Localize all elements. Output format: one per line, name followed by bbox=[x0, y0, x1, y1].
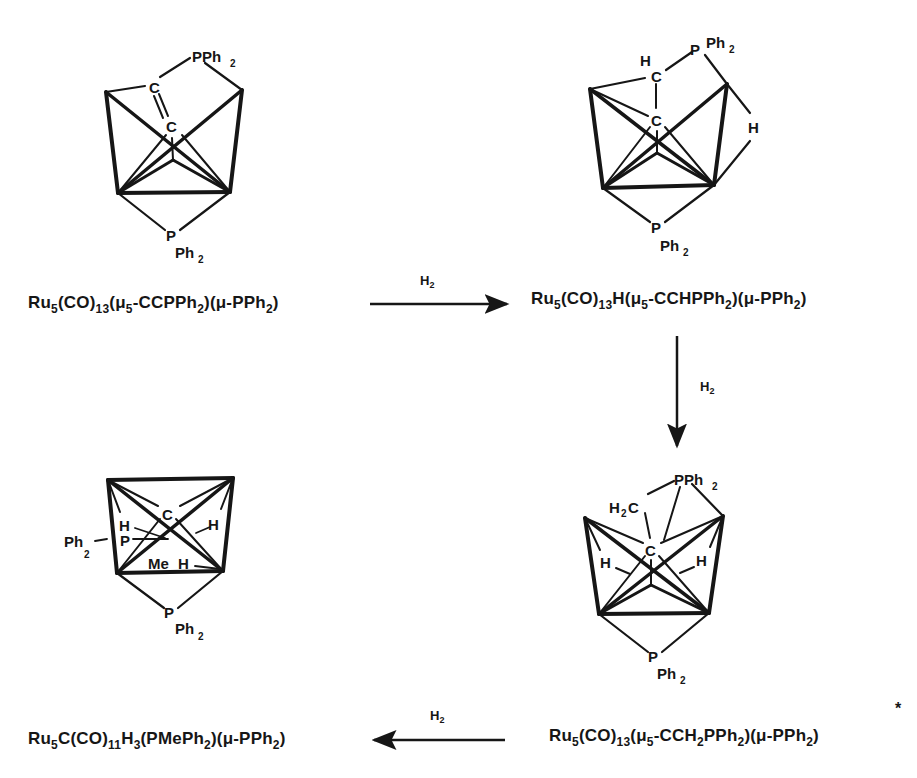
atom-h: H bbox=[640, 52, 651, 69]
svg-text:2: 2 bbox=[84, 549, 90, 560]
atom-me: Me bbox=[148, 555, 169, 572]
atom-p: P bbox=[120, 532, 130, 549]
atom-c: C bbox=[651, 68, 662, 85]
structure-3-atoms: H 2 C PPh 2 C H H P Ph 2 bbox=[600, 471, 718, 686]
atom-p: P bbox=[166, 227, 176, 244]
reaction-scheme-graphic: C C PPh 2 P Ph 2 H C C P Ph bbox=[0, 0, 917, 778]
compound-4-formula: Ru5C(CO)11H3(PMePh2)(μ-PPh2) bbox=[28, 729, 286, 749]
atom-h: H bbox=[208, 516, 219, 533]
atom-p: P bbox=[164, 604, 174, 621]
atom-h: H bbox=[609, 499, 620, 516]
atom-ph: Ph bbox=[175, 244, 194, 261]
svg-text:2: 2 bbox=[712, 481, 718, 492]
atom-c: C bbox=[162, 506, 173, 523]
reagent-label-1: H2 bbox=[420, 273, 434, 288]
atom-ph: Ph bbox=[706, 34, 725, 51]
svg-text:2: 2 bbox=[729, 44, 735, 55]
atom-ph: Ph bbox=[660, 237, 679, 254]
atom-h: H bbox=[696, 552, 707, 569]
atom-pph: PPh bbox=[674, 471, 703, 488]
atom-c: C bbox=[645, 542, 656, 559]
atom-h: H bbox=[600, 554, 611, 571]
atom-p: P bbox=[648, 648, 658, 665]
structure-2-cluster bbox=[590, 52, 750, 222]
atom-ph: Ph bbox=[175, 620, 194, 637]
reagent-label-2: H2 bbox=[700, 379, 714, 394]
atom-p: P bbox=[690, 41, 700, 58]
compound-2-formula: Ru5(CO)13H(μ5-CCHPPh2)(μ-PPh2) bbox=[531, 289, 807, 309]
atom-p: P bbox=[651, 219, 661, 236]
svg-text:2: 2 bbox=[198, 254, 204, 265]
atom-c: C bbox=[149, 79, 160, 96]
compound-3-formula: Ru5(CO)13(μ5-CCH2PPh2)(μ-PPh2) bbox=[549, 726, 819, 746]
svg-text:2: 2 bbox=[680, 675, 686, 686]
svg-text:2: 2 bbox=[621, 508, 627, 519]
reagent-label-3: H2 bbox=[430, 708, 444, 723]
atom-h: H bbox=[178, 555, 189, 572]
atom-c: C bbox=[651, 112, 662, 129]
atom-pph: PPh bbox=[192, 48, 221, 65]
compound-1-formula: Ru5(CO)13(μ5-CCPPh2)(μ-PPh2) bbox=[28, 293, 279, 313]
atom-ph: Ph bbox=[657, 665, 676, 682]
atom-h-bridge: H bbox=[748, 119, 759, 136]
svg-text:2: 2 bbox=[198, 631, 204, 642]
svg-text:2: 2 bbox=[230, 58, 236, 69]
structure-1-cluster bbox=[106, 58, 242, 230]
footnote-asterisk: * bbox=[895, 700, 901, 718]
structure-4-cluster bbox=[95, 478, 233, 608]
atom-ph: Ph bbox=[64, 533, 83, 550]
svg-text:2: 2 bbox=[683, 247, 689, 258]
atom-c: C bbox=[166, 118, 177, 135]
atom-c: C bbox=[628, 499, 639, 516]
